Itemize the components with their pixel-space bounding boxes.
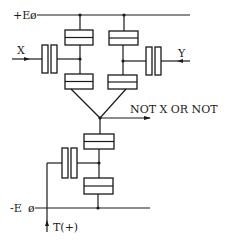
output-label: NOT X OR NOT [130,103,218,116]
right-lower-element [108,75,137,89]
input-y-label: Y [177,47,186,60]
gate-plate [62,148,68,178]
negative-rail-label: -E [10,202,22,215]
left-upper-element [65,30,93,45]
arrow-right-icon [144,116,151,120]
rail-terminal-icon: ø [28,202,35,215]
arrow-right-icon [24,57,30,61]
gate-plate [146,47,152,75]
circuit-diagram: +E ø X Y NOT X OR NOT [0,0,231,245]
clock-label: T(+) [53,221,78,234]
bottom-upper-element [84,134,114,149]
gate-plate [51,45,57,73]
positive-rail-label: +E [13,9,30,22]
bottom-lower-element [84,178,113,194]
left-lower-element [65,74,93,89]
gate-plate [155,47,161,75]
right-upper-element [109,31,138,45]
rail-terminal-icon: ø [30,9,37,22]
input-x-label: X [17,44,25,57]
arrow-up-icon [45,220,49,226]
gate-plate [42,45,48,73]
gate-plate [71,148,77,178]
